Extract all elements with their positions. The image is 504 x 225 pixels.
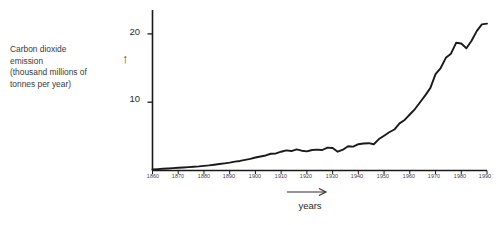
co2-emission-line [153, 24, 488, 170]
co2-emission-chart-figure: · · · · · · Carbon dioxide emission (tho… [0, 0, 504, 225]
x-axis-label: years [260, 200, 360, 211]
axis-lines [153, 10, 488, 171]
plot-area [0, 0, 504, 225]
right-arrow-icon [286, 187, 330, 197]
